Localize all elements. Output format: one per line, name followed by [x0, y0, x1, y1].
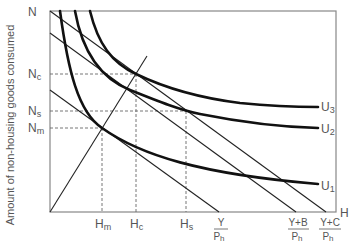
svg-text:Ph: Ph: [291, 231, 302, 243]
y-tick-labels: Nc Ns Nm: [28, 67, 44, 136]
x-tick-hc: Hc: [130, 217, 144, 232]
curve-labels: U1 U2 U3: [321, 100, 335, 194]
label-u2: U2: [321, 122, 335, 137]
indifference-curves: [60, 11, 318, 184]
svg-text:Y+C: Y+C: [320, 217, 340, 228]
intercept-y-over-ph: Y Ph: [213, 217, 228, 243]
x-tick-labels: Hm Hc Hs: [95, 217, 194, 232]
x-tick-hm: Hm: [95, 217, 111, 232]
curve-u2: [75, 11, 318, 128]
y-tick-ns: Ns: [28, 104, 42, 119]
y-axis-end-label: N: [28, 5, 37, 19]
y-tick-nc: Nc: [28, 67, 42, 82]
intercept-y-plus-c-over-ph: Y+C Ph: [319, 217, 341, 243]
y-tick-nm: Nm: [28, 121, 44, 136]
label-u3: U3: [321, 100, 335, 115]
svg-text:Ph: Ph: [322, 231, 333, 243]
svg-text:Ph: Ph: [213, 231, 224, 243]
y-axis-title: Amount of non-housing goods consumed: [4, 25, 16, 226]
x-axis-end-label: H: [340, 206, 349, 220]
intercept-y-plus-b-over-ph: Y+B Ph: [288, 217, 309, 243]
label-u1: U1: [321, 179, 335, 194]
budget-indifference-diagram: N H Amount of non-housing goods consumed…: [0, 0, 353, 252]
x-tick-hs: Hs: [180, 217, 194, 232]
svg-text:Y+B: Y+B: [288, 217, 308, 228]
income-expansion-ray: [50, 56, 147, 212]
svg-text:Y: Y: [218, 217, 225, 228]
budget-line-y: [50, 90, 219, 212]
budget-intercept-labels: Y Ph Y+B Ph Y+C Ph: [213, 217, 341, 243]
